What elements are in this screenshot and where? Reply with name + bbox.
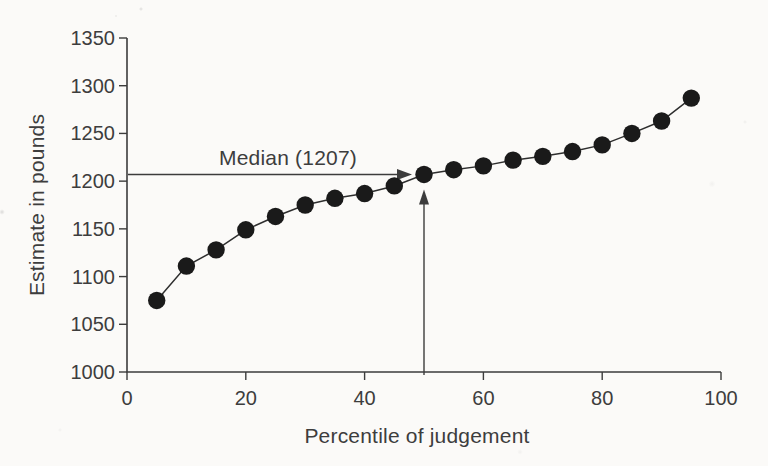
data-point bbox=[356, 185, 373, 202]
x-axis-title: Percentile of judgement bbox=[267, 424, 567, 448]
x-tick-label: 0 bbox=[121, 387, 132, 409]
x-tick-label: 80 bbox=[591, 387, 613, 409]
y-tick-label: 1350 bbox=[71, 27, 116, 49]
plot-area: 1000105011001150120012501300135002040608… bbox=[0, 0, 768, 466]
data-point bbox=[594, 136, 611, 153]
data-point bbox=[653, 112, 670, 129]
x-tick-label: 100 bbox=[704, 387, 737, 409]
x-tick-label: 60 bbox=[472, 387, 494, 409]
data-point bbox=[326, 190, 343, 207]
data-point bbox=[178, 257, 195, 274]
data-point bbox=[623, 125, 640, 142]
y-axis-title: Estimate in pounds bbox=[24, 38, 50, 372]
data-point bbox=[297, 196, 314, 213]
y-tick-label: 1050 bbox=[71, 313, 116, 335]
data-point bbox=[237, 221, 254, 238]
y-tick-label: 1300 bbox=[71, 75, 116, 97]
data-point bbox=[564, 143, 581, 160]
median-callout-arrowhead bbox=[397, 169, 412, 180]
data-point bbox=[445, 161, 462, 178]
data-point bbox=[475, 157, 492, 174]
y-tick-label: 1000 bbox=[71, 361, 116, 383]
y-tick-label: 1100 bbox=[72, 266, 115, 288]
data-point bbox=[207, 241, 224, 258]
data-point bbox=[683, 89, 700, 106]
x-tick-label: 20 bbox=[235, 387, 257, 409]
median-pointer-arrowhead bbox=[419, 189, 429, 204]
scanned-page: 1000105011001150120012501300135002040608… bbox=[0, 0, 768, 466]
data-point bbox=[148, 292, 165, 309]
x-tick-label: 40 bbox=[353, 387, 375, 409]
data-point bbox=[267, 208, 284, 225]
data-point bbox=[504, 151, 521, 168]
y-tick-label: 1200 bbox=[71, 170, 116, 192]
data-point bbox=[534, 148, 551, 165]
median-annotation-label: Median (1207) bbox=[188, 146, 388, 170]
data-point bbox=[415, 166, 432, 183]
y-tick-label: 1250 bbox=[71, 122, 116, 144]
y-tick-label: 1150 bbox=[72, 218, 115, 240]
data-point bbox=[386, 177, 403, 194]
